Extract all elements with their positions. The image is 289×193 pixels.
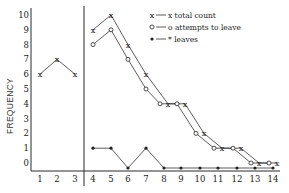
asterisk-marker-icon	[109, 147, 112, 150]
circle-marker-icon	[109, 28, 113, 32]
x-marker-icon: x	[55, 55, 60, 64]
y-tick-label: 5	[24, 84, 29, 94]
circle-marker-icon	[91, 43, 95, 47]
asterisk-marker-icon	[253, 166, 256, 169]
legend-item: xx total count	[150, 11, 216, 20]
x-tick-label: 10	[195, 174, 206, 184]
circle-marker-icon	[212, 146, 216, 150]
circle-marker-icon	[231, 146, 235, 150]
series-leaves	[91, 147, 274, 170]
x-marker-icon: x	[91, 26, 96, 35]
asterisk-marker-icon	[91, 147, 94, 150]
x-tick-label: 3	[72, 174, 77, 184]
circle-marker-icon	[267, 161, 271, 165]
legend-label: o attempts to leave	[168, 23, 241, 32]
x-marker-icon: x	[275, 159, 280, 168]
y-tick-label: 9	[24, 25, 29, 35]
y-tick-label: 1	[24, 143, 29, 153]
y-tick-label: 2	[24, 128, 29, 138]
x-tick-label: 2	[54, 174, 59, 184]
series-attempts-to-leave	[91, 28, 271, 165]
x-tick-label: 8	[161, 174, 166, 184]
circle-marker-icon	[158, 102, 162, 106]
x-marker-icon: x	[166, 100, 171, 109]
x-marker-icon: x	[144, 70, 149, 79]
circle-marker-icon	[175, 102, 179, 106]
y-tick-label: 3	[24, 114, 29, 124]
x-tick-label: 12	[232, 174, 243, 184]
x-marker-icon: x	[202, 129, 207, 138]
legend-label: * leaves	[168, 35, 198, 44]
x-marker-icon: x	[126, 41, 131, 50]
y-axis-ticks: 012345678910	[18, 10, 29, 168]
legend-item: * leaves	[150, 35, 198, 44]
y-axis-label: FREQUENCY	[5, 78, 15, 134]
x-marker-icon: x	[220, 144, 225, 153]
circle-marker-icon	[249, 161, 253, 165]
x-marker-icon: x	[239, 144, 244, 153]
asterisk-marker-icon	[179, 166, 182, 169]
asterisk-marker-icon	[144, 147, 147, 150]
x-tick-label: 13	[250, 174, 261, 184]
x-tick-label: 11	[213, 174, 224, 184]
x-tick-label: 6	[125, 174, 130, 184]
x-marker-icon: x	[150, 11, 155, 20]
x-tick-label: 1	[37, 174, 42, 184]
asterisk-marker-icon	[271, 166, 274, 169]
y-tick-label: 4	[24, 99, 29, 109]
y-tick-label: 10	[18, 10, 29, 20]
legend: xx total counto attempts to leave* leave…	[150, 11, 242, 44]
asterisk-marker-icon	[150, 37, 153, 40]
asterisk-marker-icon	[235, 166, 238, 169]
x-marker-icon: x	[73, 70, 78, 79]
asterisk-marker-icon	[162, 166, 165, 169]
x-axis-ticks: 1234567891011121314	[37, 174, 278, 184]
asterisk-marker-icon	[216, 166, 219, 169]
series-line	[93, 30, 269, 163]
legend-label: x total count	[168, 11, 216, 20]
y-tick-label: 8	[24, 40, 29, 50]
x-marker-icon: x	[109, 11, 114, 20]
x-tick-label: 7	[143, 174, 148, 184]
circle-marker-icon	[144, 87, 148, 91]
x-tick-label: 5	[108, 174, 113, 184]
y-tick-label: 7	[24, 54, 29, 64]
x-tick-label: 9	[178, 174, 183, 184]
asterisk-marker-icon	[198, 166, 201, 169]
x-marker-icon: x	[38, 70, 43, 79]
x-marker-icon: x	[257, 159, 262, 168]
legend-item: o attempts to leave	[150, 23, 241, 32]
y-tick-label: 0	[24, 158, 29, 168]
x-tick-label: 14	[268, 174, 279, 184]
x-tick-label: 4	[90, 174, 95, 184]
series-total-count: xxxxxxxxxxxxxx	[38, 11, 280, 168]
y-tick-label: 6	[24, 69, 29, 79]
series-line	[93, 148, 273, 168]
asterisk-marker-icon	[126, 166, 129, 169]
circle-marker-icon	[150, 25, 154, 29]
circle-marker-icon	[126, 57, 130, 61]
frequency-line-chart: 012345678910 1234567891011121314 FREQUEN…	[0, 0, 289, 193]
circle-marker-icon	[194, 131, 198, 135]
x-marker-icon: x	[183, 100, 188, 109]
series-layer: xxxxxxxxxxxxxx	[38, 11, 280, 170]
